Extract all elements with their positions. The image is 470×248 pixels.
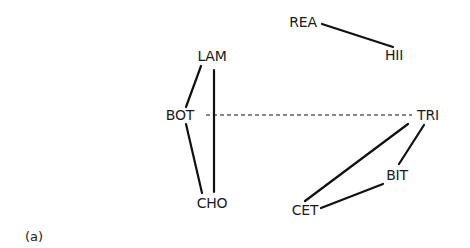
edge-tri-cet [305, 124, 408, 201]
node-rea: REA [289, 15, 317, 29]
edge-lam-bot [186, 66, 201, 107]
edge-bit-cet [321, 184, 383, 208]
node-bit: BIT [386, 168, 408, 182]
figure-caption: (a) [25, 229, 43, 244]
diagram-edges [0, 0, 470, 248]
edge-rea-hii [322, 24, 393, 47]
node-tri: TRI [417, 108, 439, 122]
node-cet: CET [292, 203, 319, 217]
node-cho: CHO [197, 196, 228, 210]
node-lam: LAM [197, 49, 226, 63]
network-diagram: REA HII LAM BOT TRI CHO BIT CET (a) [0, 0, 470, 248]
edge-tri-bit [399, 125, 424, 164]
edge-bot-cho [186, 124, 202, 193]
node-bot: BOT [166, 108, 194, 122]
node-hii: HII [385, 48, 403, 62]
